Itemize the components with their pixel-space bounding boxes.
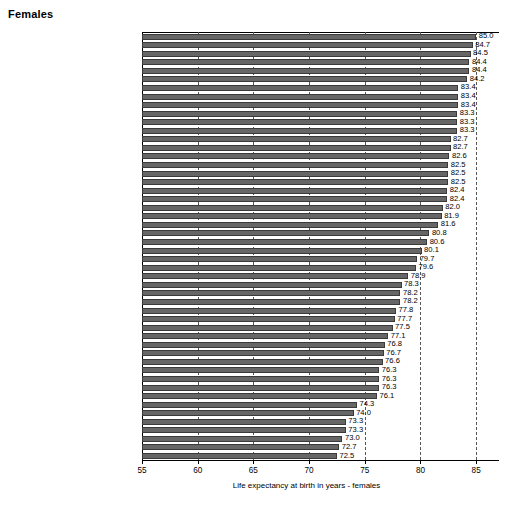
bar[interactable] <box>142 393 377 399</box>
bar-row: 76.7 <box>142 349 499 358</box>
bar[interactable] <box>142 42 473 48</box>
bar[interactable] <box>142 102 458 108</box>
chart-root: Females France (2007)Spain (2008)Switzer… <box>0 0 521 507</box>
x-tick-label: 65 <box>249 466 258 476</box>
bar-value-label: 72.5 <box>337 451 354 460</box>
bar-row: 73.0 <box>142 435 499 444</box>
bar-row: 83.3 <box>142 110 499 119</box>
bar[interactable] <box>142 153 449 159</box>
x-tick-55 <box>142 460 143 464</box>
bar-row: 84.4 <box>142 58 499 67</box>
bar[interactable] <box>142 359 383 365</box>
bar[interactable] <box>142 51 471 57</box>
bar-row: 82.7 <box>142 144 499 153</box>
bar[interactable] <box>142 34 476 40</box>
bar-row: 82.6 <box>142 152 499 161</box>
x-axis-line <box>142 460 499 461</box>
bar-row: 79.7 <box>142 255 499 264</box>
bar-row: 82.5 <box>142 170 499 179</box>
bar[interactable] <box>142 59 469 65</box>
bar[interactable] <box>142 239 427 245</box>
bar[interactable] <box>142 256 417 262</box>
x-tick-label: 55 <box>137 466 146 476</box>
bar-row: 77.8 <box>142 307 499 316</box>
bar[interactable] <box>142 367 379 373</box>
bar-row: 83.3 <box>142 118 499 127</box>
bar[interactable] <box>142 94 458 100</box>
bar[interactable] <box>142 342 385 348</box>
bar-row: 72.7 <box>142 443 499 452</box>
bar[interactable] <box>142 333 388 339</box>
bar-row: 76.1 <box>142 392 499 401</box>
bar[interactable] <box>142 453 337 459</box>
bar-row: 80.1 <box>142 247 499 256</box>
bar-row: 76.3 <box>142 384 499 393</box>
bar[interactable] <box>142 419 346 425</box>
x-tick-label: 60 <box>193 466 202 476</box>
bar-row: 77.5 <box>142 324 499 333</box>
bar[interactable] <box>142 265 416 271</box>
bar[interactable] <box>142 119 457 125</box>
bar[interactable] <box>142 145 451 151</box>
bar[interactable] <box>142 290 400 296</box>
bar[interactable] <box>142 128 457 134</box>
bar-row: 78.2 <box>142 289 499 298</box>
bar-row: 77.7 <box>142 315 499 324</box>
bar-value-label: 76.1 <box>377 391 394 400</box>
bar[interactable] <box>142 68 469 74</box>
bar[interactable] <box>142 205 443 211</box>
x-tick-label: 75 <box>360 466 369 476</box>
bar[interactable] <box>142 316 395 322</box>
x-tick-label: 85 <box>472 466 481 476</box>
bar[interactable] <box>142 76 467 82</box>
x-tick-80 <box>420 460 421 464</box>
bar[interactable] <box>142 436 342 442</box>
bar[interactable] <box>142 85 458 91</box>
x-tick-75 <box>365 460 366 464</box>
bar-row: 80.6 <box>142 238 499 247</box>
bar-row: 78.3 <box>142 281 499 290</box>
x-axis-title-text: Life expectancy at birth in years - fema… <box>233 481 381 490</box>
bar[interactable] <box>142 196 447 202</box>
x-tick-label: 70 <box>305 466 314 476</box>
bar-row: 78.2 <box>142 298 499 307</box>
bar-row: 76.8 <box>142 341 499 350</box>
bar[interactable] <box>142 188 447 194</box>
bar-row: 73.3 <box>142 426 499 435</box>
bar[interactable] <box>142 230 429 236</box>
bar[interactable] <box>142 282 402 288</box>
x-tick-70 <box>309 460 310 464</box>
bar[interactable] <box>142 273 408 279</box>
bar[interactable] <box>142 376 379 382</box>
x-tick-label: 80 <box>416 466 425 476</box>
bar[interactable] <box>142 179 448 185</box>
bar[interactable] <box>142 427 346 433</box>
page-title: Females <box>8 8 53 20</box>
bar-row: 74.0 <box>142 409 499 418</box>
bar-row: 84.2 <box>142 75 499 84</box>
bar-row: 82.5 <box>142 161 499 170</box>
bar[interactable] <box>142 350 384 356</box>
x-tick-60 <box>198 460 199 464</box>
bar-row: 84.5 <box>142 50 499 59</box>
bar[interactable] <box>142 248 422 254</box>
bar[interactable] <box>142 111 457 117</box>
bar[interactable] <box>142 444 339 450</box>
bar[interactable] <box>142 402 357 408</box>
bar-row: 74.3 <box>142 401 499 410</box>
bar-row: 77.1 <box>142 332 499 341</box>
bar[interactable] <box>142 162 448 168</box>
bar-row: 76.3 <box>142 366 499 375</box>
bar-row: 73.3 <box>142 418 499 427</box>
bar[interactable] <box>142 136 451 142</box>
bar[interactable] <box>142 299 400 305</box>
bar[interactable] <box>142 385 379 391</box>
bar-row: 83.4 <box>142 84 499 93</box>
bar[interactable] <box>142 213 442 219</box>
bar[interactable] <box>142 410 354 416</box>
bar[interactable] <box>142 308 396 314</box>
bar[interactable] <box>142 171 448 177</box>
bar[interactable] <box>142 325 393 331</box>
bar-row: 78.9 <box>142 272 499 281</box>
bar[interactable] <box>142 222 438 228</box>
